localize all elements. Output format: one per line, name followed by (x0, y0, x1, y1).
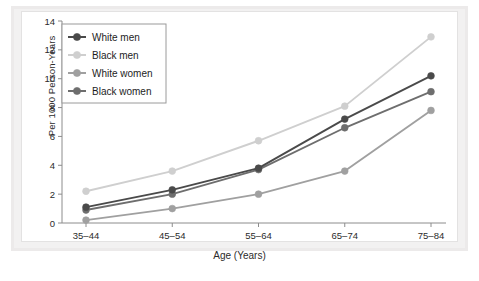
data-point-marker (169, 168, 176, 175)
caption-strip (18, 270, 458, 281)
data-point-marker (83, 204, 90, 211)
legend-marker (73, 87, 80, 94)
caption-text (18, 270, 458, 281)
y-axis-tick-label: 0 (50, 218, 55, 229)
y-axis-title: Per 1000 Person-Years (46, 6, 57, 166)
figure-container: 0246810121435–4445–5455–6465–7475–84Whit… (0, 0, 479, 281)
data-point-marker (341, 124, 348, 131)
data-point-marker (255, 165, 262, 172)
legend-marker (73, 33, 80, 40)
x-axis-tick-label: 75–84 (418, 230, 444, 241)
data-point-marker (428, 33, 435, 40)
chart-panel: 0246810121435–4445–5455–6465–7475–84Whit… (21, 11, 458, 242)
data-point-marker (169, 186, 176, 193)
legend-marker (73, 69, 80, 76)
data-point-marker (428, 107, 435, 114)
data-point-marker (255, 137, 262, 144)
chart-legend: White menBlack menWhite womenBlack women (62, 24, 166, 103)
legend-item-label: White men (92, 32, 140, 43)
data-point-marker (341, 103, 348, 110)
data-point-marker (169, 205, 176, 212)
data-point-marker (428, 72, 435, 79)
legend-item-label: Black women (92, 86, 151, 97)
data-point-marker (255, 191, 262, 198)
x-axis-tick-label: 35–44 (73, 230, 99, 241)
x-axis-title: Age (Years) (0, 250, 479, 261)
data-point-marker (341, 116, 348, 123)
data-point-marker (83, 217, 90, 224)
x-axis-tick-label: 45–54 (159, 230, 185, 241)
x-axis-tick-label: 65–74 (332, 230, 358, 241)
x-axis-tick-label: 55–64 (245, 230, 271, 241)
data-point-marker (83, 188, 90, 195)
line-chart: 0246810121435–4445–5455–6465–7475–84Whit… (22, 12, 457, 241)
data-point-marker (341, 168, 348, 175)
legend-item-label: White women (92, 68, 153, 79)
y-axis-tick-label: 2 (50, 189, 55, 200)
legend-marker (73, 51, 80, 58)
legend-item-label: Black men (92, 50, 139, 61)
data-point-marker (428, 88, 435, 95)
